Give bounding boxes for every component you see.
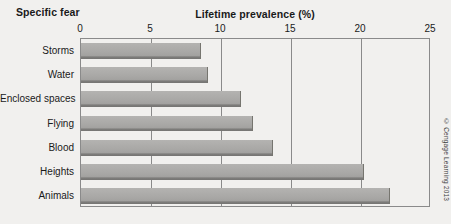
bar-water bbox=[81, 67, 208, 83]
category-axis-title: Specific fear bbox=[16, 6, 80, 18]
bars-layer bbox=[81, 39, 429, 206]
category-label-animals: Animals bbox=[0, 189, 74, 200]
plot-area bbox=[80, 38, 430, 207]
category-label-blood: Blood bbox=[0, 141, 74, 152]
category-label-storms: Storms bbox=[0, 45, 74, 56]
bar-storms bbox=[81, 43, 201, 59]
bar-animals bbox=[81, 188, 390, 204]
bar-blood bbox=[81, 140, 273, 156]
bar-heights bbox=[81, 164, 364, 180]
bar-row bbox=[81, 67, 429, 83]
bar-row bbox=[81, 140, 429, 156]
category-label-heights: Heights bbox=[0, 165, 74, 176]
value-axis-title: Lifetime prevalence (%) bbox=[80, 8, 430, 20]
bar-flying bbox=[81, 116, 253, 132]
bar-row bbox=[81, 188, 429, 204]
category-label-flying: Flying bbox=[0, 117, 74, 128]
bar-row bbox=[81, 91, 429, 107]
x-tick-label-20: 20 bbox=[354, 23, 365, 34]
x-tick-label-25: 25 bbox=[424, 23, 435, 34]
bar-row bbox=[81, 164, 429, 180]
x-tick-label-0: 0 bbox=[77, 23, 83, 34]
bar-row bbox=[81, 116, 429, 132]
bar-enclosed-spaces bbox=[81, 91, 241, 107]
bar-chart-figure: Specific fear Lifetime prevalence (%) 05… bbox=[0, 0, 451, 224]
category-label-enclosed-spaces: Enclosed spaces bbox=[0, 93, 74, 104]
bar-row bbox=[81, 43, 429, 59]
category-label-water: Water bbox=[0, 69, 74, 80]
x-tick-label-15: 15 bbox=[284, 23, 295, 34]
copyright-credit: © Cengage Learning 2013 bbox=[443, 118, 450, 201]
x-tick-label-10: 10 bbox=[214, 23, 225, 34]
x-tick-label-5: 5 bbox=[147, 23, 153, 34]
